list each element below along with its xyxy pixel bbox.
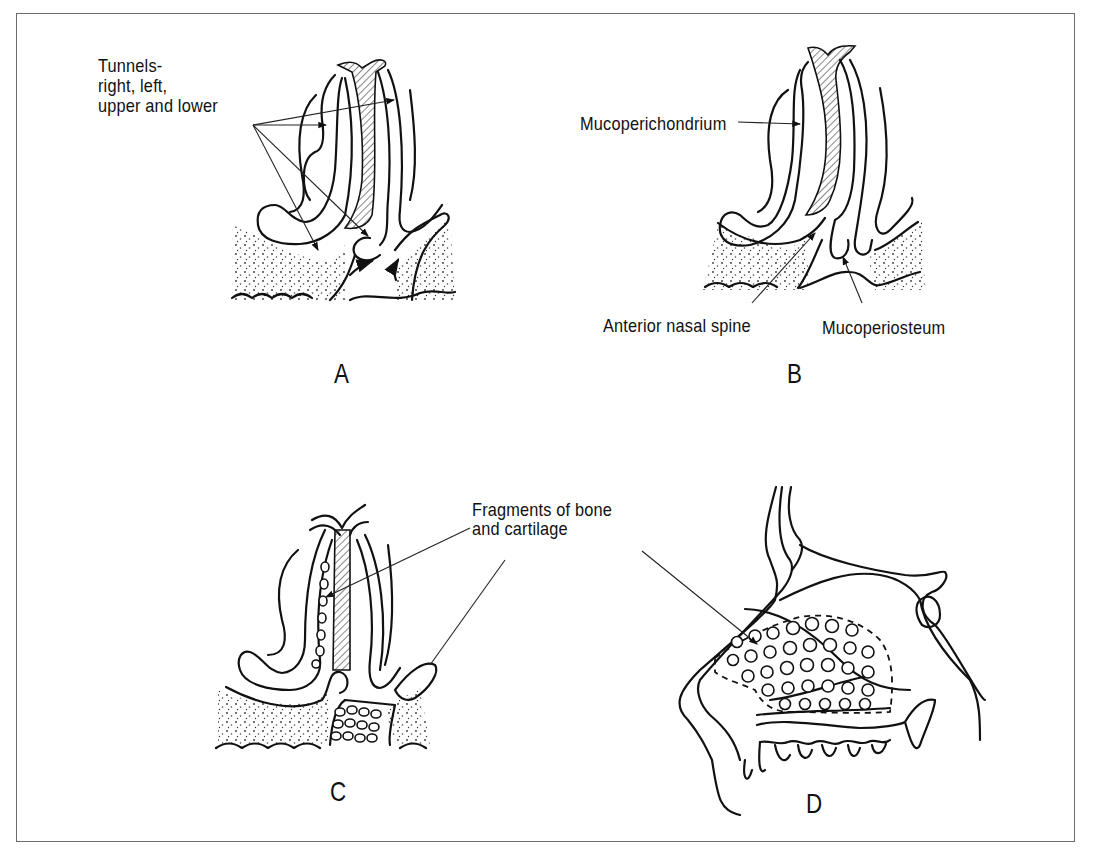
label-tunnels-line2: right, left, [98, 76, 167, 96]
bone-fragments-cluster [331, 706, 381, 742]
bone-fragments-grid [728, 618, 875, 710]
panel-a-drawing [232, 60, 455, 300]
panel-letter-b: B [787, 358, 802, 390]
label-tunnels-line3: upper and lower [98, 96, 218, 116]
panel-b-drawing [703, 46, 925, 290]
label-fragments-line2: and cartilage [472, 519, 568, 539]
panel-c-leaders [326, 528, 505, 665]
bone-fragments-column [312, 562, 329, 668]
panel-c-drawing [216, 505, 436, 748]
diagram-artwork [0, 0, 1101, 858]
label-mucoperichondrium: Mucoperichondrium [580, 114, 726, 134]
panel-letter-a: A [334, 358, 349, 390]
panel-letter-c: C [330, 776, 346, 808]
panel-d-drawing [679, 487, 985, 815]
label-tunnels-line1: Tunnels- [98, 56, 162, 76]
panel-letter-d: D [806, 788, 822, 820]
label-anterior-nasal-spine: Anterior nasal spine [603, 316, 751, 336]
panel-d-leaders [642, 551, 757, 644]
label-fragments-line1: Fragments of bone [472, 500, 612, 520]
label-mucoperiosteum: Mucoperiosteum [822, 318, 945, 338]
